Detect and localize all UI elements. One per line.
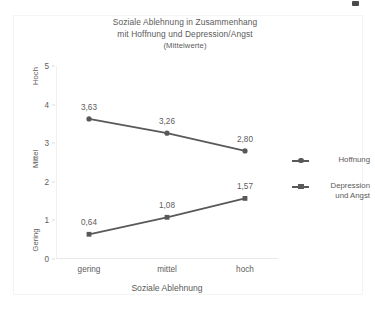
x-axis-title: Soziale Ablehnung [56,283,278,293]
legend-entry[interactable]: Depressionund Angst [292,181,370,201]
chart-title-line-2: mit Hoffnung und Depression/Angst [60,29,310,41]
series-marker [242,148,247,153]
x-axis-category-label: hoch [236,265,254,274]
data-point-label: 0,64 [81,218,97,227]
series-marker [164,131,169,136]
y-axis-tick-mark [52,259,55,260]
series-marker [165,215,170,220]
y-axis-tick-mark [52,181,55,182]
plot-area: 012345 GeringMittelHoch geringmittelhoch… [56,66,278,259]
y-axis-tick-label: 4 [44,100,49,109]
legend-entry[interactable]: Hoffnung [292,155,370,165]
y-axis-tick-label: 5 [44,62,49,71]
chart-container: Soziale Ablehnung in Zusammenhang mit Ho… [0,0,375,309]
legend-label: Depressionund Angst [309,181,370,201]
data-point-label: 2,80 [237,135,253,144]
y-axis-band-label: Gering [31,225,40,255]
y-axis-tick-mark [52,220,55,221]
capture-artifact [352,1,359,6]
y-axis-band-label: Hoch [31,61,40,91]
y-axis-tick-label: 3 [44,139,49,148]
y-axis-tick-label: 2 [44,177,49,186]
x-axis-category-label: gering [78,265,101,274]
y-axis-tick-label: 1 [44,216,49,225]
legend-marker-icon [292,182,309,191]
series-marker [243,196,248,201]
legend-label: Hoffnung [309,155,370,165]
chart-subtitle: (Mittelwerte) [60,40,310,52]
y-axis-band-label: Mittel [31,144,40,174]
data-point-label: 1,57 [237,182,253,191]
chart-title: Soziale Ablehnung in Zusammenhang mit Ho… [60,17,310,52]
chart-legend: HoffnungDepressionund Angst [292,155,370,217]
series-marker [87,232,92,237]
series-lines [56,66,278,259]
data-point-label: 3,26 [159,117,175,126]
chart-title-line-1: Soziale Ablehnung in Zusammenhang [60,17,310,29]
data-point-label: 1,08 [159,201,175,210]
y-axis-tick-mark [52,66,55,67]
legend-marker-icon [292,156,309,165]
x-axis-category-label: mittel [157,265,177,274]
data-point-label: 3,63 [81,103,97,112]
y-axis-tick-mark [52,143,55,144]
y-axis-tick-label: 0 [44,255,49,264]
series-marker [86,116,91,121]
y-axis-tick-mark [52,104,55,105]
